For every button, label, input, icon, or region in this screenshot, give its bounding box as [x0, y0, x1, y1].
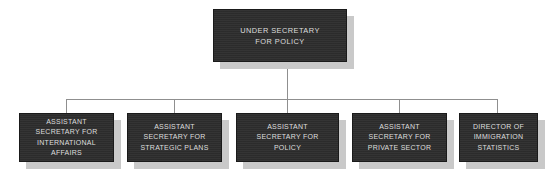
node-label: ASSISTANT SECRETARY FOR STRATEGIC PLANS — [140, 122, 208, 154]
node-under-secretary-for-policy[interactable]: UNDER SECRETARY FOR POLICY — [213, 9, 347, 62]
node-label: ASSISTANT SECRETARY FOR POLICY — [257, 122, 319, 154]
node-label: ASSISTANT SECRETARY FOR INTERNATIONAL AF… — [36, 117, 98, 159]
node-assistant-secretary-for-international-affairs[interactable]: ASSISTANT SECRETARY FOR INTERNATIONAL AF… — [19, 113, 114, 162]
org-chart: UNDER SECRETARY FOR POLICY ASSISTANT SEC… — [0, 0, 559, 180]
node-assistant-secretary-for-strategic-plans[interactable]: ASSISTANT SECRETARY FOR STRATEGIC PLANS — [127, 113, 222, 162]
node-label: ASSISTANT SECRETARY FOR PRIVATE SECTOR — [368, 122, 431, 154]
connector-drop-4 — [399, 99, 400, 113]
connector-drop-3 — [287, 99, 288, 113]
connector-horizontal-bus — [66, 99, 497, 100]
connector-drop-2 — [174, 99, 175, 113]
node-assistant-secretary-for-policy[interactable]: ASSISTANT SECRETARY FOR POLICY — [236, 113, 339, 162]
connector-drop-5 — [497, 99, 498, 113]
node-assistant-secretary-for-private-sector[interactable]: ASSISTANT SECRETARY FOR PRIVATE SECTOR — [352, 113, 447, 162]
node-label: UNDER SECRETARY FOR POLICY — [240, 25, 320, 47]
connector-drop-1 — [66, 99, 67, 113]
node-label: DIRECTOR OF IMMIGRATION STATISTICS — [473, 122, 524, 154]
node-director-of-immigration-statistics[interactable]: DIRECTOR OF IMMIGRATION STATISTICS — [459, 113, 538, 162]
